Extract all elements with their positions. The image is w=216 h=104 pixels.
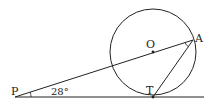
angle-label-p: 28° <box>51 86 69 97</box>
label-o: O <box>146 38 155 51</box>
angle-arc-p <box>30 92 31 97</box>
angle-arc-a <box>185 43 188 47</box>
secant-line-pa <box>15 40 193 97</box>
label-a: A <box>194 32 204 45</box>
chord-at <box>153 40 193 97</box>
point-o-dot <box>152 51 155 54</box>
geometry-diagram: P O A T 28° <box>0 0 216 104</box>
label-p: P <box>11 85 19 98</box>
diagram-svg: P O A T 28° <box>0 0 216 104</box>
label-t: T <box>146 84 154 97</box>
